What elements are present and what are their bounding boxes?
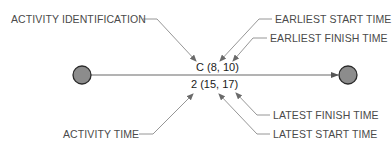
label-latest-finish-time: LATEST FINISH TIME <box>273 109 379 121</box>
label-activity-identification: ACTIVITY IDENTIFICATION <box>11 13 146 25</box>
label-earliest-finish-time: EARLIEST FINISH TIME <box>270 32 388 44</box>
leader-activity-identification <box>143 19 196 61</box>
leader-latest-start-time <box>219 94 270 134</box>
leader-earliest-start-time <box>220 19 272 61</box>
leader-activity-time <box>139 94 193 134</box>
label-activity-time: ACTIVITY TIME <box>63 128 139 140</box>
label-earliest-start-time: EARLIEST START TIME <box>275 13 391 25</box>
end-node <box>339 66 357 84</box>
leader-latest-finish-time <box>236 93 270 115</box>
activity-label: C (8, 10) <box>196 61 239 74</box>
start-node <box>73 66 91 84</box>
activity-time-label: 2 (15, 17) <box>191 78 238 91</box>
label-latest-start-time: LATEST START TIME <box>273 128 377 140</box>
